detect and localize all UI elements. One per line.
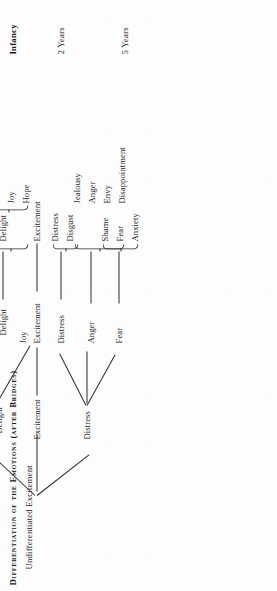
edge-2y-fear-to-group <box>118 251 119 303</box>
brace-anger-group <box>74 243 124 249</box>
node-2y-anger: Anger <box>86 321 95 343</box>
node-5y-shame: Shame <box>100 217 109 241</box>
paper-grain <box>0 0 277 591</box>
node-5y-anxiety: Anxiety <box>130 213 139 241</box>
brace-delight-group <box>0 243 28 249</box>
edge-distress-to-fear <box>86 354 115 405</box>
edge-distress-to-anger <box>86 351 87 403</box>
node-5y-envy: Envy <box>102 184 111 203</box>
node-2y-distress: Distress <box>56 315 65 344</box>
edge-excitement-to-excitement <box>36 347 37 395</box>
node-5y-joy: Joy <box>6 191 15 203</box>
age-label-infancy: Infancy <box>8 24 17 54</box>
node-5y-delight: Delight <box>0 215 7 241</box>
age-label-5-years: 5 Years <box>120 27 129 54</box>
diagram-plate: Differentiation of the Emotions (after B… <box>0 0 277 591</box>
node-5y-jealousy: Jealousy <box>72 173 81 203</box>
node-2y-fear: Fear <box>114 327 123 343</box>
node-5y-excitement: Excitement <box>32 201 41 241</box>
node-infancy-excitement: Excitement <box>32 399 41 439</box>
node-2y-excitement: Excitement <box>32 303 41 343</box>
node-infancy-distress: Distress <box>82 411 91 440</box>
figure-page: Differentiation of the Emotions (after B… <box>0 0 277 591</box>
edge-2y-excitement-to-excitement <box>36 243 37 291</box>
node-5y-hope: Hope <box>21 184 30 203</box>
node-5y-disappointment: Disappointment <box>117 147 126 203</box>
node-5y-fear: Fear <box>115 225 124 241</box>
edge-2y-anger-to-group <box>90 251 91 303</box>
node-2y-joy: Joy <box>18 331 27 343</box>
edge-distress-to-distress <box>59 353 86 405</box>
age-label-2-years: 2 Years <box>56 27 65 54</box>
brace-elation-group <box>0 204 28 210</box>
node-5y-distress: Distress <box>50 213 59 242</box>
node-2y-delight: Delight <box>0 309 7 335</box>
edge-root-to-excitement <box>36 433 37 491</box>
node-5y-anger: Anger <box>87 181 96 203</box>
edge-2y-distress-to-group <box>60 251 61 299</box>
node-5y-disgust: Disgust <box>65 214 74 241</box>
brace-distress-group <box>52 243 78 249</box>
edge-root-to-distress <box>36 454 89 495</box>
edge-2y-delight-to-group <box>2 251 3 299</box>
node-infancy-delight: Delight <box>0 407 3 433</box>
figure-subtitle: Undifferentiated Excitement <box>24 465 33 569</box>
